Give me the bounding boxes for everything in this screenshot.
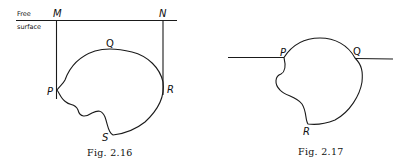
- figure-2-17: P Q R Fig. 2.17: [228, 38, 393, 157]
- free-label: Free: [17, 10, 31, 18]
- body-outline-2-17: [276, 38, 362, 124]
- label-p: P: [47, 86, 54, 97]
- figure-canvas: Free surface M N Q P R S Fig. 2.16 P Q R…: [0, 0, 414, 166]
- body-outline-2-16: [57, 49, 163, 135]
- surface-line-right: [355, 59, 393, 60]
- label-m: M: [53, 8, 62, 19]
- label-q: Q: [353, 46, 361, 57]
- caption-2-16: Fig. 2.16: [87, 147, 133, 158]
- label-n: N: [159, 8, 167, 19]
- caption-2-17: Fig. 2.17: [298, 146, 344, 157]
- label-r: R: [303, 126, 310, 137]
- surface-label: surface: [17, 23, 41, 31]
- figure-2-16: Free surface M N Q P R S Fig. 2.16: [16, 8, 177, 158]
- label-r: R: [167, 84, 174, 95]
- label-q: Q: [106, 38, 114, 49]
- label-p: P: [280, 47, 287, 58]
- label-s: S: [102, 132, 109, 143]
